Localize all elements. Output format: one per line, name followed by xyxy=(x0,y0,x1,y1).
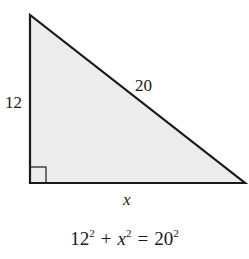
term3-exponent: 2 xyxy=(173,227,179,239)
plus-sign: + xyxy=(95,228,118,249)
term1-exponent: 2 xyxy=(89,227,95,239)
pythagorean-equation: 122+x2=202 xyxy=(0,228,249,250)
right-triangle-figure xyxy=(0,0,249,259)
equals-sign: = xyxy=(131,228,154,249)
label-hypotenuse: 20 xyxy=(135,77,152,94)
term2-base: x xyxy=(118,228,126,249)
term1-base: 12 xyxy=(70,228,89,249)
triangle xyxy=(30,15,245,183)
label-horizontal-leg: x xyxy=(123,191,131,208)
label-vertical-leg: 12 xyxy=(5,94,22,111)
term3-base: 20 xyxy=(154,228,173,249)
